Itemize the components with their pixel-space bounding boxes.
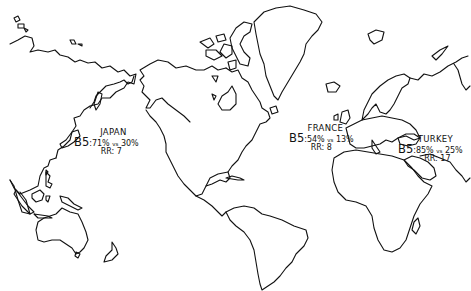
madagascar (412, 218, 420, 234)
british-isles (334, 110, 350, 124)
vs-label: vs (112, 141, 118, 147)
okhotsk-coast (90, 76, 134, 108)
baffin-island (230, 22, 252, 66)
iceland (326, 82, 340, 92)
rr-label-france: RR: 8 (289, 144, 354, 152)
annotation-japan: JAPAN B5:71% vs 30% RR: 7 (74, 128, 139, 156)
marker-label: B5 (74, 135, 89, 149)
borneo (32, 190, 44, 202)
rr-label-japan: RR: 7 (74, 148, 139, 156)
vs-label: vs (436, 148, 442, 154)
sumatra (14, 190, 34, 214)
central-america (196, 196, 226, 216)
italy (372, 140, 380, 154)
new-guinea (60, 196, 82, 210)
north-america (146, 68, 270, 196)
annotation-france: FRANCE B5:54% vs 13% RR: 8 (289, 124, 354, 152)
marker-label: B5 (289, 131, 304, 145)
indochina (10, 180, 30, 214)
annotation-turkey: TURKEY B5:85% vs 25% RR: 17 (398, 135, 463, 163)
new-zealand (104, 242, 118, 262)
east-asia-coast (10, 158, 56, 194)
newfoundland (270, 106, 278, 114)
vs-label: vs (327, 137, 333, 143)
scandinavia (362, 74, 410, 120)
svalbard (368, 30, 384, 44)
stat-b: 30% (121, 139, 139, 148)
greenland (254, 6, 322, 100)
new-siberian-islands (70, 40, 82, 46)
russia-arctic (410, 46, 470, 90)
gulf-mexico (206, 172, 228, 186)
canadian-arctic (200, 34, 236, 100)
hudson-bay (218, 86, 236, 110)
alaska (140, 60, 226, 122)
south-america (226, 206, 308, 290)
arctic-islands-west (14, 16, 28, 32)
africa (332, 150, 432, 252)
rr-label-turkey: RR: 17 (398, 155, 463, 163)
marker-label: B5 (398, 142, 413, 156)
sulawesi (46, 196, 50, 202)
stat-b: 13% (336, 135, 354, 144)
